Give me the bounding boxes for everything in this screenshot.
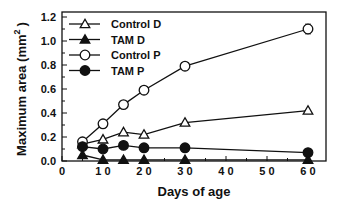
y-tick-label: 0.8 — [41, 59, 56, 71]
legend-marker-control-p — [80, 50, 90, 60]
y-tick-label: 0.6 — [41, 83, 56, 95]
legend-item-control-p: Control P — [69, 49, 161, 61]
y-axis-label-base: Maximum area (mm — [14, 34, 29, 155]
data-point-control-p — [98, 119, 108, 129]
data-point-control-p — [303, 24, 313, 34]
x-tick-label: 3 0 — [177, 165, 192, 177]
chart: 0.00.20.40.60.81.01.201 02 03 04 05 06 0… — [0, 0, 341, 208]
series-line-control-d — [83, 111, 309, 145]
data-point-control-p — [180, 61, 190, 71]
data-point-tam-p — [180, 143, 190, 153]
data-point-tam-p — [98, 144, 108, 154]
y-axis-label-superscript: 2 — [12, 29, 22, 34]
data-point-control-p — [139, 85, 149, 95]
y-tick-label: 0.2 — [41, 131, 56, 143]
series-line-control-p — [83, 29, 309, 142]
x-tick-label: 6 0 — [300, 165, 315, 177]
series-line-tam-d — [83, 155, 309, 160]
x-axis-label: Days of age — [158, 184, 231, 199]
legend-item-control-d: Control D — [69, 18, 161, 30]
legend-label: TAM D — [111, 34, 145, 46]
y-tick-label: 0.4 — [41, 107, 57, 119]
x-tick-label: 1 0 — [95, 165, 110, 177]
x-tick-label: 5 0 — [259, 165, 274, 177]
data-point-tam-p — [139, 143, 149, 153]
x-tick-label: 4 0 — [218, 165, 233, 177]
x-tick-label: 0 — [59, 165, 65, 177]
series-line-tam-p — [83, 145, 309, 152]
y-tick-label: 1.2 — [41, 11, 56, 23]
data-point-control-p — [119, 100, 129, 110]
series-control-d — [78, 106, 313, 148]
data-point-tam-p — [78, 142, 88, 152]
data-point-tam-p — [119, 141, 129, 151]
data-point-tam-p — [303, 148, 313, 158]
legend-item-tam-p: TAM P — [69, 65, 144, 77]
legend-label: Control P — [111, 49, 161, 61]
x-tick-label: 2 0 — [136, 165, 151, 177]
legend-label: TAM P — [111, 65, 144, 77]
y-tick-label: 1.0 — [41, 35, 56, 47]
series-tam-p — [78, 141, 313, 158]
y-axis-label: Maximum area (mm2) — [12, 22, 29, 156]
legend-item-tam-d: TAM D — [69, 34, 145, 46]
y-axis-label-close: ) — [14, 22, 29, 26]
data-point-control-d — [119, 127, 129, 135]
data-point-control-d — [303, 106, 313, 114]
y-tick-label: 0.0 — [41, 155, 56, 167]
legend-marker-tam-p — [80, 66, 90, 76]
legend-label: Control D — [111, 18, 161, 30]
